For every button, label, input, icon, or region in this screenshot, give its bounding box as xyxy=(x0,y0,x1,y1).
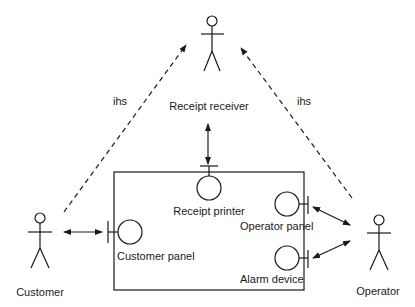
receipt-printer-interface-icon xyxy=(197,166,221,200)
alarm-device-interface-icon xyxy=(275,246,308,270)
ihs-left-line xyxy=(64,45,186,212)
customer-label: Customer xyxy=(16,286,64,298)
customer-panel-interface-icon xyxy=(108,220,142,244)
operator-panel-label: Operator panel xyxy=(240,220,313,232)
alarm-device-arrow xyxy=(313,241,350,258)
diagram-canvas xyxy=(0,0,415,307)
operator-panel-interface-icon xyxy=(275,192,308,216)
operator-label: Operator xyxy=(356,285,399,297)
receipt-receiver-actor-icon xyxy=(201,16,224,71)
customer-panel-label: Customer panel xyxy=(117,250,195,262)
operator-actor-icon xyxy=(367,215,391,270)
alarm-device-label: Alarm device xyxy=(240,273,304,285)
ihs-right-line xyxy=(241,48,352,198)
ihs-left-label: ihs xyxy=(113,95,127,107)
receipt-printer-label: Receipt printer xyxy=(173,205,245,217)
receipt-receiver-label: Receipt receiver xyxy=(169,100,248,112)
customer-actor-icon xyxy=(28,213,52,268)
operator-panel-arrow xyxy=(313,207,350,225)
ihs-right-label: ihs xyxy=(297,95,311,107)
